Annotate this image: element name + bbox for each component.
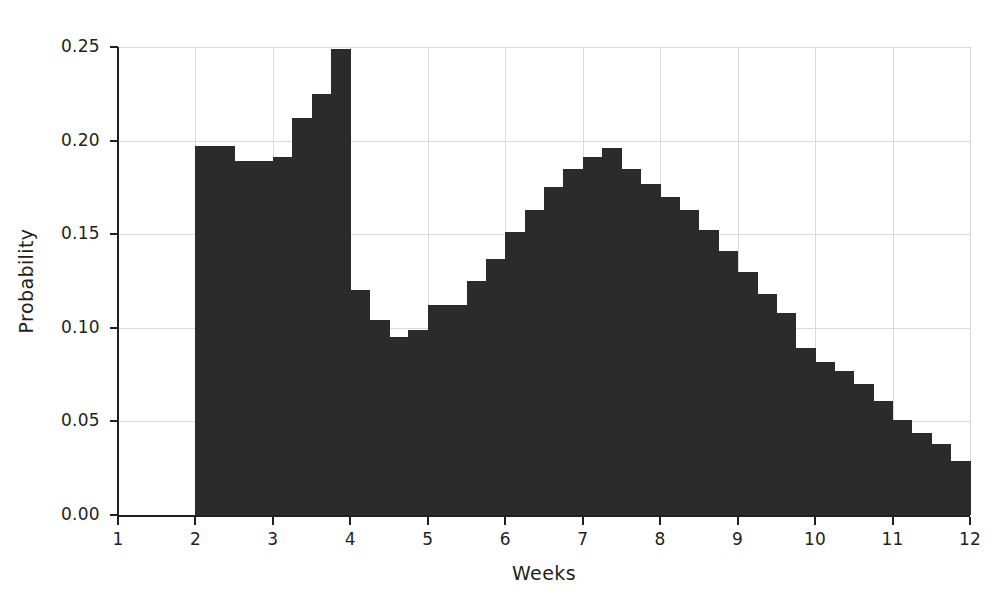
x-tick-mark (504, 517, 506, 525)
histogram-bar (505, 232, 525, 515)
y-tick-label: 0.20 (38, 132, 100, 149)
gridline-horizontal (118, 141, 970, 142)
histogram-bar (660, 197, 680, 515)
histogram-bar (699, 230, 719, 515)
histogram-bar (970, 493, 971, 515)
histogram-bar (563, 169, 583, 515)
x-tick-mark (194, 517, 196, 525)
histogram-figure: 0.000.050.100.150.200.25 123456789101112… (0, 0, 1008, 613)
gridline-horizontal (118, 47, 970, 48)
y-tick-mark (110, 233, 118, 235)
y-axis-title: Probability (12, 47, 40, 515)
histogram-bar (757, 294, 777, 515)
y-tick-label: 0.15 (38, 225, 100, 242)
y-tick-label: 0.00 (38, 506, 100, 523)
x-tick-label: 6 (485, 530, 525, 548)
x-tick-mark (582, 517, 584, 525)
x-tick-mark (349, 517, 351, 525)
histogram-bar (931, 444, 951, 515)
histogram-bar (428, 305, 448, 515)
x-tick-label: 12 (950, 530, 990, 548)
x-axis-line (117, 515, 970, 517)
x-tick-label: 2 (175, 530, 215, 548)
x-tick-mark (427, 517, 429, 525)
histogram-bar (641, 184, 661, 515)
histogram-bar (292, 118, 312, 515)
x-tick-label: 1 (98, 530, 138, 548)
y-tick-mark (110, 327, 118, 329)
x-tick-label: 5 (408, 530, 448, 548)
gridline-vertical (970, 47, 971, 515)
x-tick-mark (969, 517, 971, 525)
x-tick-mark (659, 517, 661, 525)
histogram-bar (331, 49, 351, 515)
histogram-bar (854, 384, 874, 515)
histogram-bar (738, 272, 758, 515)
x-tick-mark (272, 517, 274, 525)
x-axis-title: Weeks (118, 561, 970, 585)
histogram-bar (893, 420, 913, 515)
y-tick-mark (110, 420, 118, 422)
histogram-bar (583, 157, 603, 515)
histogram-bar (525, 210, 545, 515)
histogram-bar (873, 401, 893, 515)
histogram-bar (912, 433, 932, 515)
histogram-bar (254, 161, 274, 515)
y-tick-label: 0.10 (38, 319, 100, 336)
x-tick-mark (814, 517, 816, 525)
histogram-bar (776, 313, 796, 515)
y-tick-mark (110, 514, 118, 516)
y-tick-label: 0.05 (38, 412, 100, 429)
y-tick-mark (110, 46, 118, 48)
x-tick-label: 3 (253, 530, 293, 548)
histogram-bar (234, 161, 254, 515)
histogram-bar (544, 187, 564, 515)
histogram-bar (389, 337, 409, 515)
x-tick-label: 9 (718, 530, 758, 548)
histogram-bar (312, 94, 332, 515)
histogram-bar (408, 330, 428, 515)
x-tick-label: 10 (795, 530, 835, 548)
x-tick-label: 11 (873, 530, 913, 548)
histogram-bar (273, 157, 293, 515)
y-tick-label: 0.25 (38, 38, 100, 55)
y-tick-mark (110, 140, 118, 142)
histogram-bar (467, 281, 487, 515)
histogram-bar (370, 320, 390, 515)
histogram-bar (486, 259, 506, 515)
x-tick-mark (737, 517, 739, 525)
histogram-bar (447, 305, 467, 515)
histogram-bar (796, 348, 816, 515)
histogram-bar (718, 251, 738, 515)
histogram-bar (215, 146, 235, 515)
x-tick-label: 8 (640, 530, 680, 548)
histogram-bar (680, 210, 700, 515)
x-tick-label: 4 (330, 530, 370, 548)
histogram-bar (195, 146, 215, 515)
x-tick-label: 7 (563, 530, 603, 548)
x-tick-mark (892, 517, 894, 525)
histogram-bar (602, 148, 622, 515)
histogram-bar (350, 290, 370, 515)
histogram-bar (834, 371, 854, 515)
histogram-bar (951, 461, 971, 515)
histogram-bar (815, 362, 835, 516)
plot-area (118, 47, 970, 515)
y-axis-line (117, 47, 119, 516)
histogram-bar (621, 169, 641, 515)
x-tick-mark (117, 517, 119, 525)
